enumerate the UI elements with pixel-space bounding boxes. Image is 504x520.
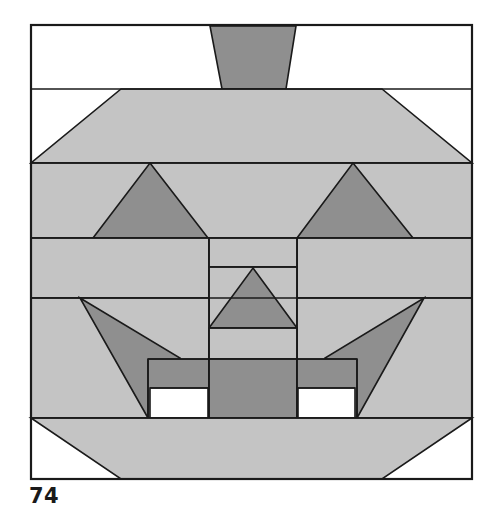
quilt-block-diagram: Jack-o'-lantern pieced quilt block diagr… bbox=[0, 0, 504, 520]
nose-upper-block bbox=[209, 238, 297, 267]
stem-trapezoid bbox=[210, 26, 296, 89]
mouth-center-bar bbox=[209, 359, 297, 418]
figure-root: Jack-o'-lantern pieced quilt block diagr… bbox=[0, 0, 504, 520]
figure-caption: 74 bbox=[29, 486, 59, 507]
left-tooth bbox=[150, 388, 208, 418]
eye-row-background bbox=[31, 163, 472, 238]
nose-lower-block bbox=[209, 328, 297, 359]
upper-cheek-right-block bbox=[297, 238, 472, 298]
right-tooth bbox=[298, 388, 355, 418]
upper-cheek-left-block bbox=[31, 238, 209, 298]
